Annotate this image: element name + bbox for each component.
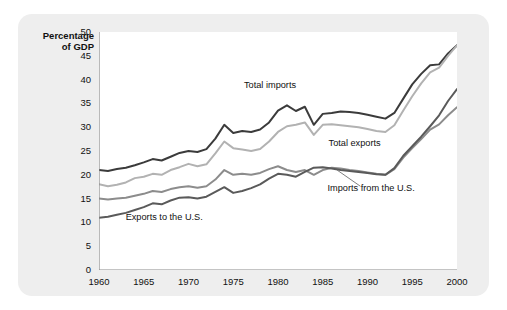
y-tick-label: 20 — [69, 169, 91, 180]
series-label: Total exports — [329, 138, 381, 148]
x-tick-label: 1985 — [305, 276, 341, 287]
y-tick-label: 15 — [69, 193, 91, 204]
y-tick-label: 30 — [69, 121, 91, 132]
x-tick-label: 1990 — [350, 276, 386, 287]
x-tick-label: 1960 — [81, 276, 117, 287]
plot-svg — [99, 32, 457, 270]
x-tick-label: 1995 — [394, 276, 430, 287]
chart-figure: Percentage of GDP 05101520253035404550 1… — [0, 0, 507, 310]
series-line — [99, 45, 457, 171]
series-label: Exports to the U.S. — [126, 212, 203, 222]
y-tick-label: 25 — [69, 145, 91, 156]
x-tick-label: 1970 — [171, 276, 207, 287]
series-label: Total imports — [244, 80, 296, 90]
axis-lines — [99, 32, 457, 270]
y-tick-label: 35 — [69, 97, 91, 108]
series-line — [99, 45, 457, 186]
series-label: Imports from the U.S. — [328, 183, 415, 193]
y-tick-label: 45 — [69, 50, 91, 61]
y-tick-label: 0 — [69, 264, 91, 275]
x-tick-label: 1980 — [260, 276, 296, 287]
y-tick-label: 5 — [69, 240, 91, 251]
plot-area — [99, 32, 457, 270]
y-tick-label: 40 — [69, 74, 91, 85]
series-line — [99, 89, 457, 218]
y-tick-label: 10 — [69, 216, 91, 227]
x-tick-label: 1965 — [126, 276, 162, 287]
x-tick-label: 2000 — [439, 276, 475, 287]
x-tick-label: 1975 — [215, 276, 251, 287]
y-tick-label: 50 — [69, 26, 91, 37]
